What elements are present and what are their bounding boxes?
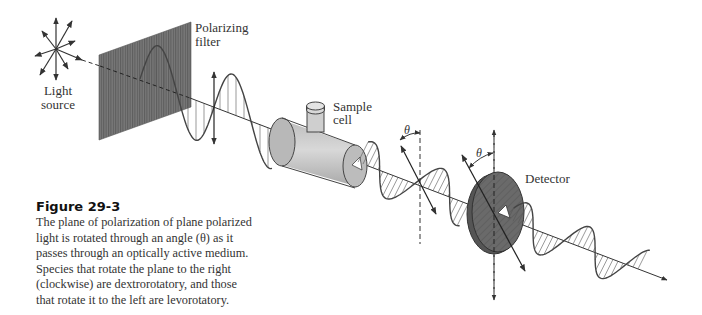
theta-label-1: θ	[404, 123, 410, 137]
light-source-label-line2: source	[41, 97, 75, 112]
wave-hatch-line	[438, 174, 447, 193]
sample-cell-label-line2: cell	[333, 112, 352, 127]
wave-hatch-line	[533, 231, 538, 240]
wave-hatch-line	[451, 200, 458, 215]
light-source-label-line1: Light	[44, 83, 73, 98]
sample-cell	[269, 102, 367, 188]
theta-arc-1	[400, 133, 420, 140]
wave-hatch-line	[457, 204, 468, 226]
polarizing-filter-label-line1: Polarizing	[195, 20, 249, 35]
wave-hatch-line	[596, 256, 603, 270]
transmitted-wave-hatching	[508, 203, 647, 278]
detector	[467, 172, 524, 254]
theta-label-2: θ	[476, 146, 482, 160]
incident-beam	[82, 60, 100, 66]
wave-hatch-line	[368, 147, 377, 166]
rotated-wave	[368, 142, 460, 226]
light-source-icon	[35, 18, 82, 80]
figure-number: Figure 29-3	[36, 199, 256, 215]
detector-label: Detector	[525, 171, 570, 186]
wave-hatch-line	[583, 229, 592, 248]
figure-caption-text: The plane of polarization of plane polar…	[36, 215, 256, 309]
wave-hatch-line	[428, 169, 438, 189]
wave-hatch-line	[598, 258, 608, 277]
wave-hatch-line	[443, 182, 449, 194]
rotated-wave-hatching	[358, 142, 468, 226]
wave-hatch-line	[373, 156, 379, 168]
wave-hatch-line	[638, 250, 647, 269]
wave-hatch-line	[588, 237, 595, 250]
polarizing-filter	[99, 22, 191, 140]
figure-caption: Figure 29-3 The plane of polarization of…	[36, 199, 256, 309]
polarizing-filter-label-line2: filter	[195, 34, 221, 49]
wave-hatch-line	[387, 177, 398, 199]
wave-hatch-line	[528, 217, 533, 227]
transmitted-wave	[514, 203, 650, 279]
wave-hatch-line	[433, 169, 444, 191]
wave-hatch-line	[453, 202, 463, 222]
wave-hatch-line	[538, 235, 548, 255]
wave-hatch-line	[383, 176, 393, 196]
wave-hatch-line	[381, 174, 388, 189]
